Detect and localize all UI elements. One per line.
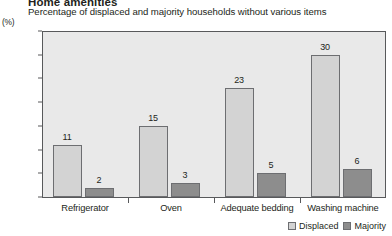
bar-value-label: 11: [47, 132, 87, 142]
bar-displaced-refrigerator[interactable]: [53, 145, 82, 197]
legend-label-displaced: Displaced: [299, 221, 339, 231]
bar-group: 306: [300, 31, 386, 197]
bar-majority-refrigerator[interactable]: [85, 188, 114, 197]
bar-value-label: 2: [79, 175, 119, 185]
legend-item-displaced: Displaced: [288, 221, 339, 231]
x-axis-label-refrigerator: Refrigerator: [61, 203, 108, 213]
bar-displaced-washing-machine[interactable]: [311, 55, 340, 197]
bar-value-label: 3: [165, 170, 205, 180]
chart-subtitle: Percentage of displaced and majority hou…: [28, 6, 326, 17]
x-axis-tick-mark: [128, 198, 129, 203]
x-axis-label-oven: Oven: [160, 203, 182, 213]
bar-group: 153: [128, 31, 214, 197]
bar-value-label: 30: [305, 42, 345, 52]
bar-majority-washing-machine[interactable]: [343, 169, 372, 197]
bars-layer: 112153235306: [42, 31, 386, 197]
bar-value-label: 23: [219, 75, 259, 85]
bar-group: 112: [42, 31, 128, 197]
chart-legend: Displaced Majority: [288, 221, 386, 231]
bar-value-label: 15: [133, 113, 173, 123]
bar-majority-oven[interactable]: [171, 183, 200, 197]
x-axis-tick-mark: [300, 198, 301, 203]
legend-label-majority: Majority: [354, 221, 386, 231]
bar-displaced-oven[interactable]: [139, 126, 168, 197]
legend-swatch-majority: [343, 222, 351, 230]
bar-value-label: 5: [251, 160, 291, 170]
bar-group: 235: [214, 31, 300, 197]
legend-swatch-displaced: [288, 222, 296, 230]
x-axis-label-adequate-bedding: Adequate bedding: [220, 203, 293, 213]
bar-value-label: 6: [337, 156, 377, 166]
legend-item-majority: Majority: [343, 221, 386, 231]
x-axis-label-washing-machine: Washing machine: [307, 203, 378, 213]
bar-displaced-adequate-bedding[interactable]: [225, 88, 254, 197]
x-axis-tick-mark: [214, 198, 215, 203]
bar-majority-adequate-bedding[interactable]: [257, 173, 286, 197]
chart-container: Home amenities Percentage of displaced a…: [0, 0, 392, 236]
y-axis: 05101520253035: [0, 0, 42, 199]
